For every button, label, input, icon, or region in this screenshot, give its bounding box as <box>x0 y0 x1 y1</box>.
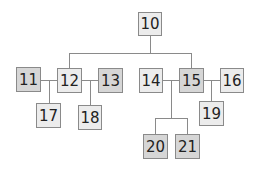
edge-to-18 <box>90 80 91 105</box>
node-15: 15 <box>179 68 204 93</box>
edge-20-21-horizontal <box>155 118 188 119</box>
node-14: 14 <box>139 68 163 93</box>
node-21: 21 <box>175 134 200 159</box>
node-20: 20 <box>143 134 168 159</box>
edge-to-21 <box>187 118 188 134</box>
edge-to-20-21-vertical <box>171 80 172 118</box>
edge-to-17 <box>49 80 50 103</box>
edge-10-down <box>150 36 151 53</box>
node-10: 10 <box>138 12 162 36</box>
edge-to-19 <box>211 80 212 101</box>
node-12: 12 <box>57 68 82 93</box>
edge-15-16 <box>204 80 220 81</box>
edge-10-horizontal <box>69 53 192 54</box>
edge-to-12 <box>69 53 70 68</box>
edge-to-20 <box>155 118 156 134</box>
node-11: 11 <box>16 67 41 92</box>
node-16: 16 <box>220 68 244 93</box>
node-18: 18 <box>78 105 102 130</box>
node-13: 13 <box>98 68 123 93</box>
edge-to-15 <box>191 53 192 68</box>
node-19: 19 <box>199 101 224 126</box>
node-17: 17 <box>36 103 61 128</box>
